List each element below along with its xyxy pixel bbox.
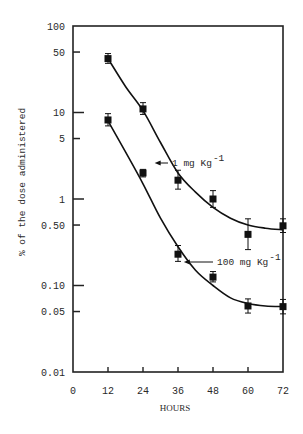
y-tick-label: 0.01 [41, 368, 65, 379]
data-point [210, 272, 217, 282]
square-marker [175, 251, 182, 258]
data-point [245, 219, 252, 250]
y-tick-label: 0.05 [41, 307, 65, 318]
fit-curves [108, 59, 283, 307]
square-marker [105, 116, 112, 123]
y-tick-label: 0.50 [41, 221, 65, 232]
series-label-text: 100 mg Kg [217, 257, 268, 268]
series-label-2: 100 mg Kg-1 [184, 252, 281, 268]
x-tick-label: 60 [242, 386, 254, 397]
square-marker [140, 169, 147, 176]
y-axis-title: % of the dose administered [17, 108, 28, 256]
series-label-1: 1 mg Kg-1 [155, 153, 225, 169]
y-tick-label: 1 [59, 195, 65, 206]
x-tick-label: 0 [70, 386, 76, 397]
arrow-head-icon [155, 161, 161, 166]
data-point [280, 299, 287, 313]
y-tick-label: 0.10 [41, 281, 65, 292]
data-point [280, 219, 287, 233]
series-label-text: 1 mg Kg [172, 158, 212, 169]
square-marker [280, 222, 287, 229]
square-marker [140, 105, 147, 112]
x-tick-label: 72 [277, 386, 289, 397]
data-point [245, 299, 252, 313]
data-point [175, 170, 182, 189]
x-tick-label: 48 [207, 386, 219, 397]
square-marker [175, 177, 182, 184]
fit-curve-series-2 [108, 121, 283, 307]
data-points [105, 54, 287, 314]
square-marker [105, 55, 112, 62]
square-marker [210, 196, 217, 203]
x-axis-title: HOURS [160, 403, 191, 413]
data-point [175, 246, 182, 262]
square-marker [245, 231, 252, 238]
x-tick-label: 24 [137, 386, 149, 397]
data-point [105, 54, 112, 64]
data-point [140, 103, 147, 115]
x-tick-label: 36 [172, 386, 184, 397]
data-point [140, 169, 147, 177]
series-label-superscript: -1 [269, 252, 281, 263]
square-marker [245, 302, 252, 309]
fit-curve-series-1 [108, 59, 283, 230]
plot-frame [73, 26, 283, 372]
y-tick-label: 50 [53, 48, 65, 59]
square-marker [280, 303, 287, 310]
y-tick-label: 5 [59, 134, 65, 145]
y-axis-ticks: 1005010510.500.100.050.01 [41, 22, 84, 379]
x-tick-label: 12 [102, 386, 114, 397]
square-marker [210, 274, 217, 281]
y-tick-label: 10 [53, 108, 65, 119]
series-label-superscript: -1 [213, 153, 225, 164]
pharmacokinetic-chart: 1005010510.500.100.050.01 0122436486072 … [0, 0, 303, 434]
y-tick-label: 100 [47, 22, 65, 33]
